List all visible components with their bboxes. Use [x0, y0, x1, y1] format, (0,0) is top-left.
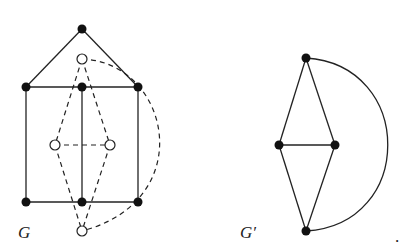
graph-figure: G G′ .: [0, 0, 416, 252]
graph-label-g: G: [18, 223, 30, 242]
vertex: [331, 141, 340, 150]
vertex: [22, 83, 31, 92]
edge: [306, 58, 335, 145]
dual-vertex: [50, 140, 60, 150]
vertex: [302, 227, 311, 236]
edge: [26, 29, 82, 87]
vertex: [78, 25, 87, 34]
trailing-mark: .: [395, 227, 399, 246]
dual-vertex: [105, 140, 115, 150]
vertex: [78, 198, 87, 207]
edge: [279, 145, 306, 231]
dual-edge: [82, 145, 110, 231]
vertex: [134, 198, 143, 207]
vertex: [78, 83, 87, 92]
graph-label-g-prime: G′: [240, 223, 256, 242]
edge: [279, 58, 306, 145]
vertex: [134, 83, 143, 92]
dual-vertex: [77, 226, 87, 236]
vertex: [275, 141, 284, 150]
vertex: [22, 198, 31, 207]
edge: [306, 145, 335, 231]
dual-edge: [82, 59, 110, 145]
vertex: [302, 54, 311, 63]
dual-edge: [55, 59, 82, 145]
dual-edge: [55, 145, 82, 231]
dual-vertex: [77, 54, 87, 64]
edge: [82, 29, 138, 87]
